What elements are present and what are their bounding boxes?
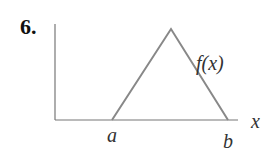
point-a-label: a bbox=[107, 124, 117, 146]
function-label: f(x) bbox=[196, 52, 224, 75]
function-curve bbox=[112, 29, 228, 120]
x-axis-label: x bbox=[250, 110, 260, 132]
point-b-label: b bbox=[223, 130, 233, 152]
triangle-function-graph: f(x) x a b bbox=[0, 0, 280, 162]
